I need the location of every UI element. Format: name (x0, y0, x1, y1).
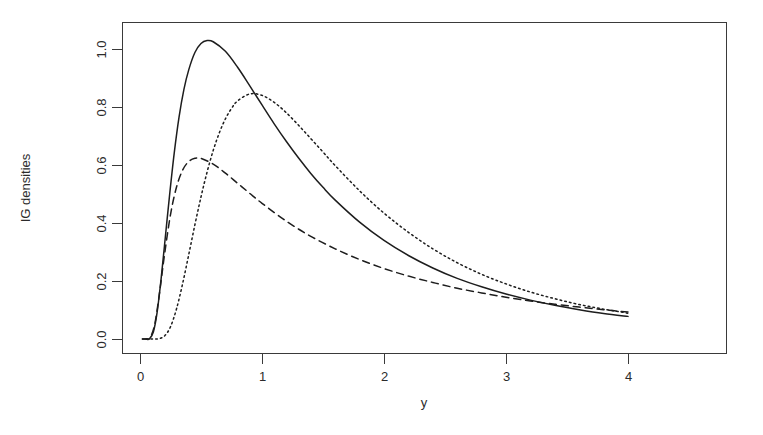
density-curve-dashed (142, 158, 628, 340)
x-tick-label: 1 (259, 369, 266, 384)
x-tick-label: 2 (381, 369, 388, 384)
y-axis-tick-labels: 0.00.20.40.60.81.0 (94, 40, 109, 348)
density-curves (142, 40, 628, 339)
y-tick-label: 0.4 (94, 214, 109, 232)
plot-frame (123, 23, 727, 354)
y-tick-label: 0.0 (94, 330, 109, 348)
y-tick-label: 0.8 (94, 98, 109, 116)
x-tick-label: 0 (137, 369, 144, 384)
x-axis-tick-labels: 01234 (137, 369, 632, 384)
y-axis-ticks (112, 50, 122, 340)
figure-container: 01234 0.00.20.40.60.81.0 y IG densities (0, 0, 763, 435)
x-axis-title: y (421, 395, 428, 410)
y-tick-label: 1.0 (94, 40, 109, 58)
x-tick-label: 4 (625, 369, 632, 384)
density-curve-dotted (146, 94, 628, 339)
density-curve-solid (142, 40, 628, 339)
y-axis-title: IG densities (18, 153, 33, 222)
y-tick-label: 0.6 (94, 156, 109, 174)
x-tick-label: 3 (503, 369, 510, 384)
y-tick-label: 0.2 (94, 272, 109, 290)
x-axis-ticks (141, 354, 629, 364)
ig-densities-plot: 01234 0.00.20.40.60.81.0 y IG densities (0, 0, 763, 435)
